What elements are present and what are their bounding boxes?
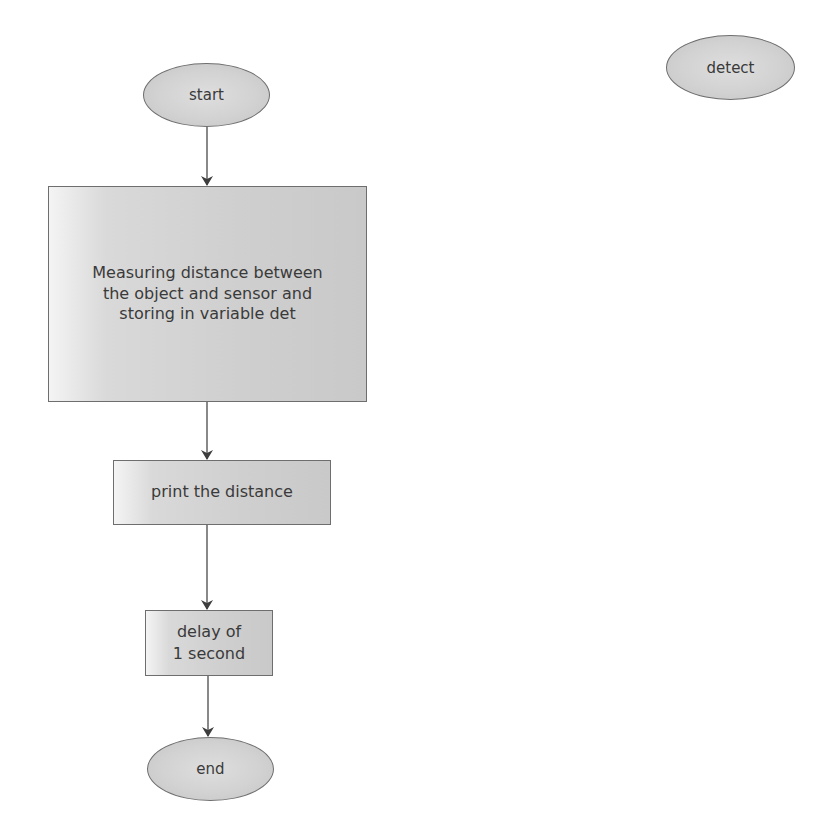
- measure-distance-label: Measuring distance between the object an…: [92, 263, 322, 325]
- end-node[interactable]: end: [147, 737, 274, 801]
- delay-process-node[interactable]: delay of 1 second: [145, 610, 273, 676]
- start-node[interactable]: start: [143, 63, 270, 127]
- detect-node[interactable]: detect: [666, 35, 795, 100]
- print-distance-label: print the distance: [151, 482, 293, 503]
- start-node-label: start: [189, 86, 224, 104]
- end-node-label: end: [196, 760, 224, 778]
- print-distance-process-node[interactable]: print the distance: [113, 460, 331, 525]
- flowchart-edges: [0, 0, 829, 831]
- measure-distance-process-node[interactable]: Measuring distance between the object an…: [48, 186, 367, 402]
- delay-label: delay of 1 second: [173, 621, 245, 664]
- flowchart-canvas: start detect Measuring distance between …: [0, 0, 829, 831]
- detect-node-label: detect: [707, 59, 755, 77]
